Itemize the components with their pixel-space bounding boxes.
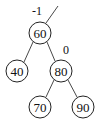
- edge-60-80: [47, 42, 55, 61]
- parent-link-line: [46, 6, 58, 23]
- node-value: 40: [11, 64, 24, 79]
- edge-80-90: [68, 80, 77, 97]
- annotation-minus-one: -1: [32, 4, 42, 18]
- node-value: 70: [34, 100, 47, 115]
- edge-80-70: [46, 80, 54, 97]
- tree-node-70: 70: [29, 96, 51, 118]
- tree-node-60: 60: [29, 22, 51, 44]
- node-value: 60: [34, 26, 47, 41]
- annotation-zero: 0: [63, 43, 69, 57]
- tree-node-80: 80: [50, 60, 72, 82]
- node-value: 80: [55, 64, 68, 79]
- node-value: 90: [77, 100, 90, 115]
- tree-node-40: 40: [6, 60, 28, 82]
- tree-diagram: 60 40 80 70 90 -1 0: [0, 0, 101, 126]
- edge-60-40: [24, 42, 33, 62]
- tree-node-90: 90: [72, 96, 94, 118]
